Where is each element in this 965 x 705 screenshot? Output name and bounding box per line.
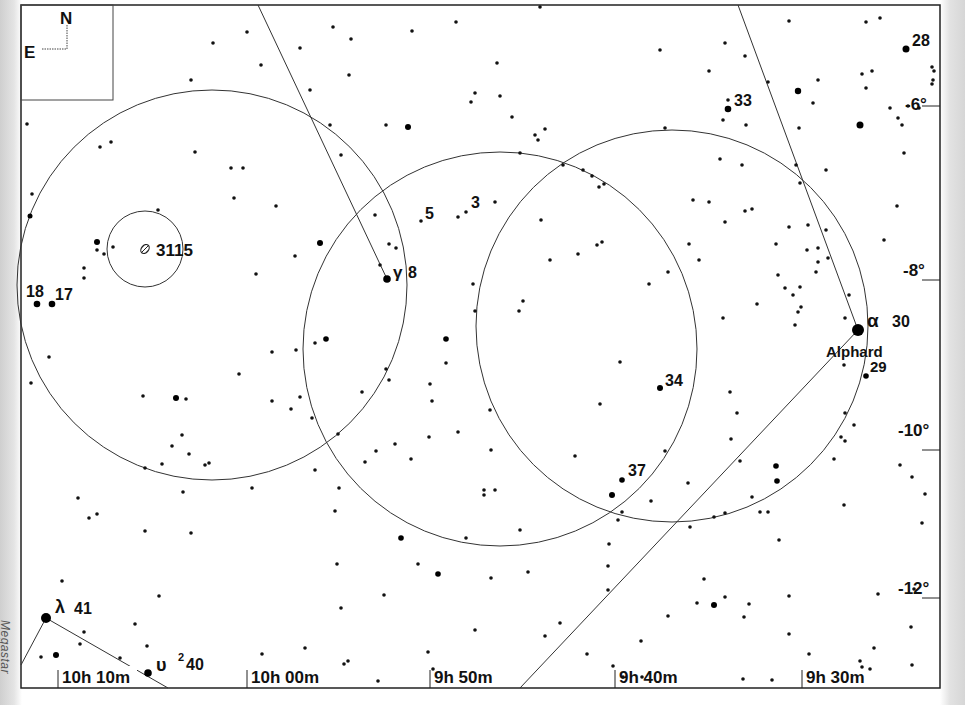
star-chart-canvas: N E 10h 10m 10h 00m 9h 50m 9h 40m 9h 30m… xyxy=(0,0,965,705)
ra-label-9h40m: 9h 40m xyxy=(619,668,678,687)
star-37 xyxy=(619,477,625,483)
star-alphard xyxy=(852,324,864,336)
star-29 xyxy=(863,373,869,379)
label-lambda-greek: λ xyxy=(55,597,65,617)
label-17: 17 xyxy=(55,286,73,303)
label-upsilon-number: 40 xyxy=(186,656,204,673)
label-gamma-greek: γ xyxy=(393,263,403,282)
ra-label-10h10m: 10h 10m xyxy=(62,668,130,687)
label-upsilon-greek: υ xyxy=(156,655,166,675)
star-18 xyxy=(34,301,41,308)
label-alphard-greek: α xyxy=(867,310,879,331)
label-29: 29 xyxy=(870,358,887,375)
star-chart: N E 10h 10m 10h 00m 9h 50m 9h 40m 9h 30m… xyxy=(0,0,965,705)
star-gamma xyxy=(383,275,391,283)
label-34: 34 xyxy=(665,372,683,389)
label-3: 3 xyxy=(471,194,480,211)
label-28: 28 xyxy=(912,32,930,49)
star-lambda xyxy=(41,613,51,623)
ra-label-9h30m: 9h 30m xyxy=(806,668,865,687)
label-5: 5 xyxy=(425,205,434,222)
label-alphard-number: 30 xyxy=(892,313,910,330)
label-gamma-number: 8 xyxy=(408,264,417,281)
star-upsilon2 xyxy=(144,669,152,677)
ra-label-9h50m: 9h 50m xyxy=(434,668,493,687)
label-upsilon-super: 2 xyxy=(178,651,184,663)
label-18: 18 xyxy=(26,283,44,300)
credit-label: Megastar xyxy=(0,620,12,674)
ra-label-10h00m: 10h 00m xyxy=(251,668,319,687)
label-ngc-3115: 3115 xyxy=(156,241,193,260)
label-33: 33 xyxy=(734,92,752,109)
label-37: 37 xyxy=(628,462,646,479)
compass-east: E xyxy=(24,43,35,62)
star-28 xyxy=(903,46,910,53)
star-34 xyxy=(657,385,663,391)
compass-north: N xyxy=(60,9,72,28)
dec-label-8: -8° xyxy=(903,261,925,280)
star-33 xyxy=(725,106,732,113)
label-lambda-number: 41 xyxy=(74,600,92,617)
dec-label-10: -10° xyxy=(898,421,930,440)
